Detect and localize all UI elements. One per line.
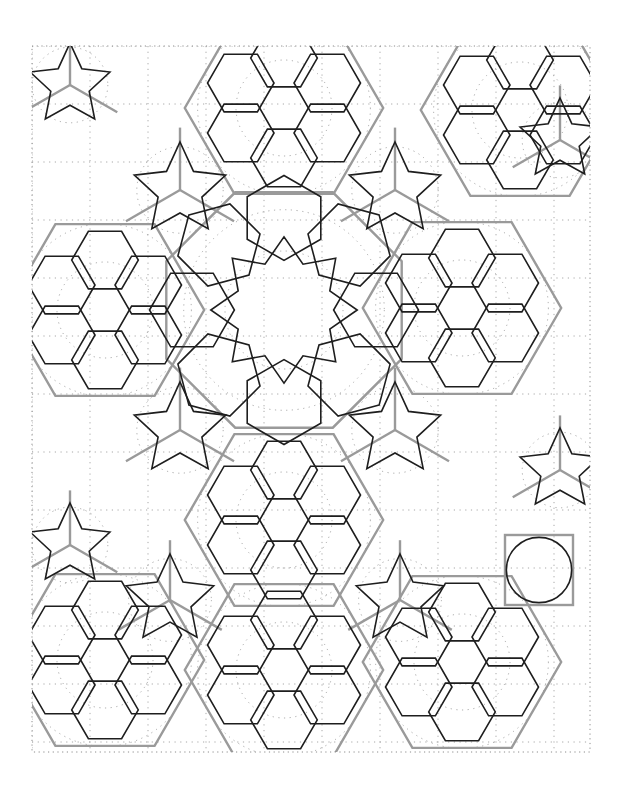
strap-hexagon xyxy=(251,591,318,649)
strap-hexagon xyxy=(487,131,554,189)
gray-spoke xyxy=(70,85,117,112)
construction-circle xyxy=(57,262,153,358)
strap-hexagon xyxy=(429,329,496,387)
construction-circle xyxy=(19,574,192,747)
strap-hexagon xyxy=(251,441,318,499)
strap-hexagon xyxy=(72,681,139,739)
center-eight-point-star xyxy=(211,237,357,383)
strap-hexagon xyxy=(251,29,318,87)
gray-spoke xyxy=(180,430,234,461)
gray-spoke xyxy=(513,470,560,497)
construction-circle xyxy=(236,60,332,156)
construction-circle xyxy=(198,584,371,757)
construction-circle xyxy=(198,22,371,195)
construction-circle xyxy=(184,210,385,411)
hexagon-outline xyxy=(185,22,383,194)
strap-hexagon xyxy=(294,616,361,674)
pattern-canvas xyxy=(0,0,623,796)
gray-spoke xyxy=(560,470,607,497)
construction-circle xyxy=(434,24,607,197)
strap-hexagon xyxy=(429,583,496,641)
hexagon-outline xyxy=(6,574,204,746)
gray-spoke xyxy=(400,600,452,630)
construction-circle xyxy=(57,612,153,708)
strap-hexagon xyxy=(208,666,275,724)
strap-hexagon xyxy=(208,466,275,524)
strap-hexagon xyxy=(386,254,453,312)
strap-hexagon xyxy=(386,608,453,666)
gray-spoke xyxy=(395,430,449,461)
hexagon-outline xyxy=(6,224,204,396)
strap-hexagon xyxy=(487,31,554,89)
construction-circle xyxy=(236,472,332,568)
strap-hexagon xyxy=(444,106,511,164)
construction-circle xyxy=(236,622,332,718)
strap-lobe xyxy=(247,360,321,445)
strap-hexagon xyxy=(444,56,511,114)
strap-hexagon xyxy=(472,608,539,666)
strap-hexagon xyxy=(29,656,96,714)
strap-lobe xyxy=(247,176,321,261)
strap-hexagon xyxy=(472,254,539,312)
strap-hexagon xyxy=(386,658,453,716)
gray-spoke xyxy=(126,190,180,221)
strap-hexagon xyxy=(429,683,496,741)
construction-circle xyxy=(225,251,343,369)
gray-spoke xyxy=(341,190,395,221)
gray-spoke xyxy=(341,430,395,461)
strap-hexagon xyxy=(29,256,96,314)
strap-hexagon xyxy=(251,691,318,749)
frame-border xyxy=(32,46,590,752)
strap-hexagon xyxy=(72,231,139,289)
strap-hexagon xyxy=(72,581,139,639)
strap-hexagon xyxy=(29,306,96,364)
hexagon-outline xyxy=(421,24,619,196)
gray-spoke xyxy=(23,545,70,572)
strap-hexagon xyxy=(29,606,96,664)
hexagon-outline xyxy=(185,584,383,756)
strap-hexagon xyxy=(294,54,361,112)
strap-hexagon xyxy=(208,104,275,162)
strap-hexagon xyxy=(115,256,182,314)
gray-spoke xyxy=(126,430,180,461)
strap-hexagon xyxy=(386,304,453,362)
strap-hexagon xyxy=(294,466,361,524)
square-outline xyxy=(505,535,573,605)
strap-hexagon xyxy=(472,304,539,362)
gray-spoke xyxy=(395,190,449,221)
strap-hexagon xyxy=(472,658,539,716)
strap-hexagon xyxy=(294,666,361,724)
strap-hexagon xyxy=(294,516,361,574)
strap-ring xyxy=(506,537,571,602)
strap-hexagon xyxy=(294,104,361,162)
gray-spoke xyxy=(23,85,70,112)
strap-hexagon xyxy=(72,331,139,389)
strap-hexagon xyxy=(429,229,496,287)
hexagon-outline xyxy=(185,434,383,606)
gray-spoke xyxy=(70,545,117,572)
strap-hexagon xyxy=(251,129,318,187)
strap-hexagon xyxy=(251,541,318,599)
